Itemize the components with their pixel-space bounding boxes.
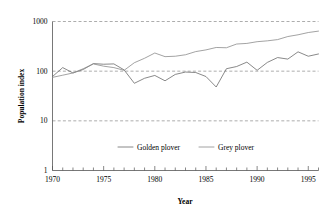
series-line-grey-plover	[53, 31, 319, 77]
y-tick-label-10: 10	[40, 116, 48, 125]
chart-legend: Golden plover Grey plover	[118, 143, 255, 152]
x-axis-title: Year	[178, 197, 194, 206]
y-axis-title: Population index	[17, 69, 26, 124]
x-tick-label-1985: 1985	[198, 175, 213, 184]
x-tick-label-1995: 1995	[301, 175, 316, 184]
legend-label-grey-plover: Grey plover	[218, 143, 255, 152]
gridlines-group	[53, 22, 319, 121]
x-tick-label-1990: 1990	[250, 175, 265, 184]
population-index-line-chart: 1000100101 197019751980198519901995 Year…	[0, 0, 332, 217]
series-line-golden-plover	[53, 52, 319, 87]
x-tick-label-1970: 1970	[45, 175, 60, 184]
chart-figure: 1000100101 197019751980198519901995 Year…	[0, 0, 332, 217]
legend-label-golden-plover: Golden plover	[137, 143, 181, 152]
y-tick-label-100: 100	[36, 67, 48, 76]
y-axis-tick-labels: 1000100101	[33, 17, 48, 175]
x-axis-tick-labels: 197019751980198519901995	[45, 175, 316, 184]
x-tick-label-1980: 1980	[147, 175, 162, 184]
data-series-group	[53, 31, 319, 87]
x-tick-label-1975: 1975	[96, 175, 111, 184]
x-axis-tickmarks	[53, 166, 319, 171]
y-tick-label-1000: 1000	[33, 17, 48, 26]
